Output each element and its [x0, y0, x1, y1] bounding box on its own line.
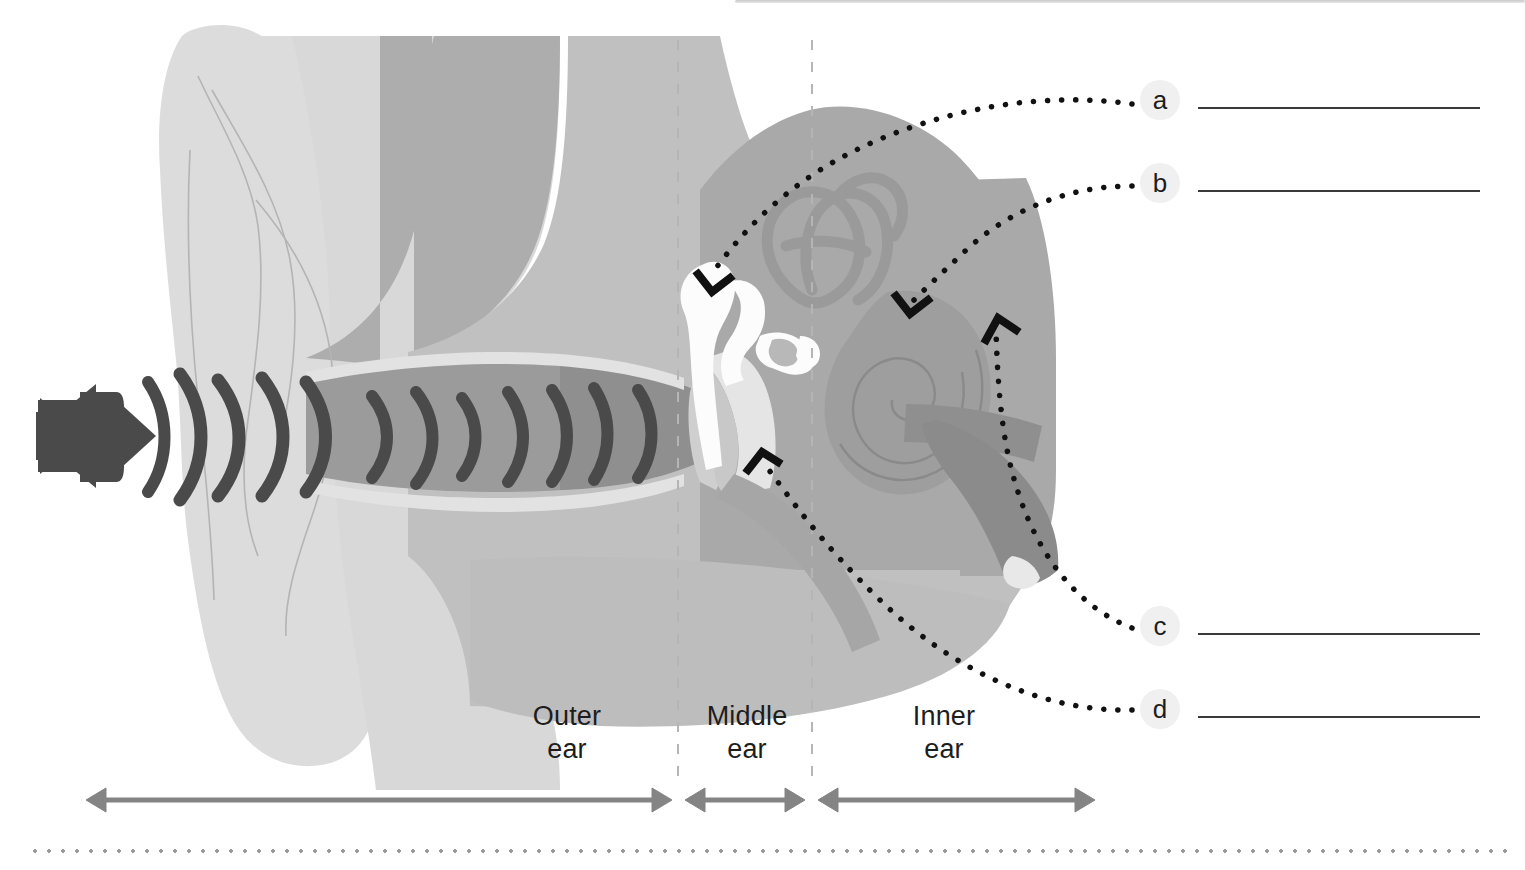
label-badge-c: c	[1140, 606, 1180, 646]
answer-row-d: d	[1140, 689, 1485, 729]
region-label-middle-ear: Middle ear	[673, 700, 821, 766]
answer-row-b: b	[1140, 163, 1485, 203]
region-label-inner-ear: Inner ear	[865, 700, 1023, 766]
answer-row-a: a	[1140, 80, 1485, 120]
answer-line-d[interactable]	[1198, 716, 1480, 718]
scale-arrows	[86, 788, 1095, 812]
answer-line-b[interactable]	[1198, 190, 1480, 192]
answer-row-c: c	[1140, 606, 1485, 646]
label-badge-d: d	[1140, 689, 1180, 729]
ear-diagram-worksheet: Outer ear Middle ear Inner ear a b c d	[0, 0, 1525, 870]
speaker-icon	[36, 384, 156, 488]
label-badge-b: b	[1140, 163, 1180, 203]
bottom-dotted-divider	[28, 848, 1508, 854]
answer-line-c[interactable]	[1198, 633, 1480, 635]
region-label-outer-ear: Outer ear	[489, 700, 645, 766]
answer-line-a[interactable]	[1198, 107, 1480, 109]
label-badge-a: a	[1140, 80, 1180, 120]
